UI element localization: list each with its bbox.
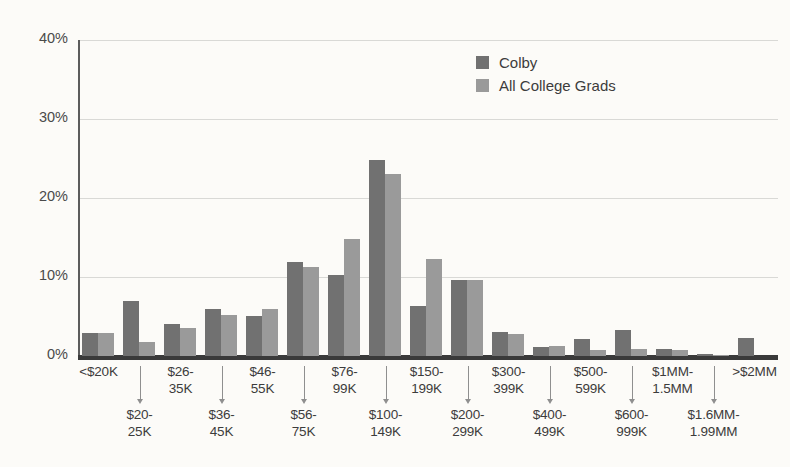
legend-label-colby: Colby	[499, 54, 537, 71]
bar-chart: 0%10%20%30%40% Colby All College Grads <…	[0, 0, 790, 467]
x-axis-tick-label: $76- 99K	[308, 364, 382, 397]
bar-colby	[328, 275, 344, 356]
y-axis-tick-label: 30%	[0, 109, 68, 125]
y-axis-tick-label: 10%	[0, 267, 68, 283]
legend: Colby All College Grads	[476, 54, 616, 100]
x-axis-tick-label: $600- 999K	[595, 407, 669, 440]
category-pointer-arrow-icon	[140, 366, 141, 399]
bar-all-college-grads	[549, 346, 565, 356]
x-axis-tick-label: $1.6MM- 1.99MM	[677, 407, 751, 440]
bar-all-college-grads	[631, 349, 647, 356]
bar-all-college-grads	[303, 267, 319, 356]
bar-colby	[410, 306, 426, 356]
bar-colby	[82, 333, 98, 356]
x-axis-tick-label: $100- 149K	[349, 407, 423, 440]
bar-all-college-grads	[713, 355, 729, 356]
bar-group	[162, 40, 197, 356]
bar-colby	[164, 324, 180, 356]
x-axis-tick-label: $400- 499K	[513, 407, 587, 440]
x-axis-tick-label: $500- 599K	[554, 364, 628, 397]
legend-label-all-college-grads: All College Grads	[499, 77, 616, 94]
bar-colby	[123, 301, 139, 356]
category-pointer-arrow-icon	[468, 366, 469, 399]
category-pointer-arrow-icon	[714, 366, 715, 399]
y-axis-tick-label: 40%	[0, 30, 68, 46]
bar-colby	[533, 347, 549, 356]
bar-colby	[574, 339, 590, 356]
category-pointer-arrow-icon	[550, 366, 551, 399]
bar-all-college-grads	[385, 174, 401, 356]
x-axis-tick-label: $300- 399K	[472, 364, 546, 397]
bar-colby	[697, 354, 713, 356]
bar-all-college-grads	[221, 315, 237, 356]
bar-all-college-grads	[262, 309, 278, 356]
bar-group	[244, 40, 279, 356]
category-pointer-arrow-icon	[386, 366, 387, 399]
bar-group	[736, 40, 771, 356]
x-axis-tick-label: $150- 199K	[390, 364, 464, 397]
plot-area	[78, 40, 775, 356]
bar-colby	[451, 280, 467, 356]
category-pointer-arrow-icon	[304, 366, 305, 399]
bar-colby	[656, 349, 672, 356]
bar-all-college-grads	[590, 350, 606, 356]
bar-group	[203, 40, 238, 356]
bar-group	[613, 40, 648, 356]
bar-group	[285, 40, 320, 356]
bar-colby	[246, 316, 262, 356]
bar-all-college-grads	[467, 280, 483, 356]
bar-group	[408, 40, 443, 356]
bar-all-college-grads	[508, 334, 524, 356]
bar-colby	[369, 160, 385, 356]
bar-all-college-grads	[180, 328, 196, 356]
bar-colby	[492, 332, 508, 356]
x-axis-tick-label: $36- 45K	[185, 407, 259, 440]
x-axis-tick-label: <$20K	[62, 364, 136, 381]
legend-item-colby: Colby	[476, 54, 616, 71]
x-axis-tick-label: $56- 75K	[267, 407, 341, 440]
category-pointer-arrow-icon	[632, 366, 633, 399]
x-axis-tick-label: $26- 35K	[144, 364, 218, 397]
x-axis-tick-label: $20- 25K	[103, 407, 177, 440]
x-axis-tick-label: >$2MM	[718, 364, 790, 381]
bar-group	[121, 40, 156, 356]
bar-group	[695, 40, 730, 356]
legend-swatch-icon	[476, 79, 489, 92]
bar-group	[80, 40, 115, 356]
bar-all-college-grads	[672, 350, 688, 356]
x-axis-tick-label: $46- 55K	[226, 364, 300, 397]
y-axis-tick-label: 20%	[0, 188, 68, 204]
bar-group	[326, 40, 361, 356]
bar-all-college-grads	[98, 333, 114, 356]
category-pointer-arrow-icon	[222, 366, 223, 399]
bar-colby	[615, 330, 631, 356]
bar-all-college-grads	[426, 259, 442, 356]
bar-group	[367, 40, 402, 356]
bar-colby	[205, 309, 221, 356]
bar-all-college-grads	[139, 342, 155, 356]
legend-item-all-college-grads: All College Grads	[476, 77, 616, 94]
x-axis-tick-label: $200- 299K	[431, 407, 505, 440]
bar-colby	[738, 338, 754, 356]
legend-swatch-icon	[476, 56, 489, 69]
x-axis-tick-label: $1MM- 1.5MM	[636, 364, 710, 397]
x-axis-tick-labels: <$20K$20- 25K$26- 35K$36- 45K$46- 55K$56…	[0, 360, 790, 467]
bar-group	[654, 40, 689, 356]
bar-colby	[287, 262, 303, 356]
bar-all-college-grads	[344, 239, 360, 356]
